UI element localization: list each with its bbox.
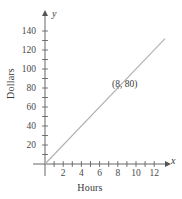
- x-tick-label-6: 6: [90, 169, 110, 179]
- x-tick-label-12: 12: [144, 169, 164, 179]
- y-tick-label-40: 40: [0, 122, 36, 132]
- data-line-series: [45, 39, 165, 164]
- y-tick-label-120: 120: [0, 46, 36, 56]
- x-axis-title: Hours: [60, 182, 120, 193]
- y-tick-label-140: 140: [0, 27, 36, 37]
- y-axis: [42, 10, 48, 176]
- x-axis-variable-label: x: [171, 155, 175, 166]
- x-tick-label-8: 8: [108, 169, 128, 179]
- x-tick-label-2: 2: [53, 169, 73, 179]
- y-tick-label-20: 20: [0, 141, 36, 151]
- x-tick-label-10: 10: [126, 169, 146, 179]
- y-axis-title: Dollars: [5, 58, 16, 110]
- data-point-annotation: (8, 80): [112, 79, 137, 89]
- y-axis-variable-label: y: [52, 8, 56, 19]
- x-tick-label-4: 4: [71, 169, 91, 179]
- chart-container: 140 120 100 80 60 40 20 2 4 6 8 10 12 Do…: [0, 0, 182, 199]
